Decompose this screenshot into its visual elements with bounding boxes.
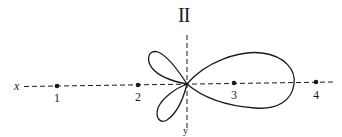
point-3-label: 3: [231, 89, 237, 101]
point-2-label: 2: [135, 91, 141, 103]
x-axis-label: x: [14, 80, 19, 92]
lower-left-lobe: [157, 84, 187, 121]
upper-left-lobe: [149, 51, 187, 84]
point-4-label: 4: [313, 89, 319, 101]
point-2-marker: [136, 83, 141, 88]
y-axis-label: y: [183, 126, 188, 136]
point-1-label: 1: [54, 92, 60, 104]
point-1-marker: [55, 84, 60, 89]
polar-lobe-diagram: [0, 0, 342, 137]
large-right-lobe: [187, 53, 294, 109]
point-3-marker: [232, 81, 237, 86]
point-4-marker: [314, 80, 319, 85]
